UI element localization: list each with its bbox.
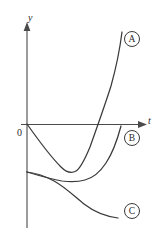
y-axis-arrowhead <box>24 22 31 31</box>
curve-c <box>27 172 118 218</box>
t-axis-arrowhead <box>138 121 147 128</box>
curve-label-c: C <box>124 203 140 219</box>
curve-label-a: A <box>124 31 140 47</box>
curve-b <box>27 126 121 182</box>
t-axis-label: t <box>148 116 151 126</box>
curve-a <box>27 32 122 172</box>
graph-figure: y t 0 A B C <box>0 0 155 231</box>
curve-label-b: B <box>124 130 140 146</box>
origin-label: 0 <box>17 128 22 138</box>
y-axis-label: y <box>28 13 32 23</box>
t-axis <box>21 121 147 128</box>
